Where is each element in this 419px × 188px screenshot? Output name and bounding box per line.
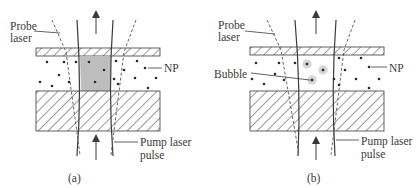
pump-laser-label: Pump laser [361, 135, 412, 147]
np-label: NP [389, 62, 404, 74]
probe-laser-label: Probe [218, 19, 245, 31]
nanoparticles [251, 57, 381, 90]
probe-laser-label-2: laser [218, 31, 240, 43]
probe-leader [34, 31, 60, 33]
pump-beam-right [333, 20, 336, 156]
up-arrow-icon [92, 10, 100, 18]
top-substrate-layer [250, 47, 384, 55]
probe-beam-right [111, 20, 136, 155]
bubble-leader [251, 73, 310, 80]
heated-region [80, 56, 111, 91]
caption-a: (a) [68, 172, 81, 184]
bubbles [302, 59, 328, 85]
pump-beam-left [295, 20, 299, 156]
pump-laser-label-2: pulse [361, 148, 385, 160]
up-arrow-icon [92, 134, 100, 142]
caption-b: (b) [307, 172, 320, 184]
pump-beam-right [111, 20, 114, 156]
bottom-substrate-layer [36, 91, 160, 131]
pump-beam-left [77, 20, 80, 156]
probe-beam-left [267, 20, 299, 155]
bottom-substrate-layer [250, 91, 384, 131]
up-arrow-icon [312, 136, 320, 144]
probe-laser-label-2: laser [10, 32, 32, 44]
probe-laser-label: Probe [10, 20, 37, 32]
np-label: NP [164, 62, 179, 74]
probe-beam-left [52, 20, 80, 155]
pump-laser-label-2: pulse [140, 149, 164, 161]
pump-laser-label: Pump laser [140, 136, 191, 148]
panel-a: Probe laser NP Pump laser pulse (a) [0, 0, 210, 188]
panel-b: Probe laser Bubble NP Pump laser pulse (… [209, 0, 419, 188]
probe-leader [245, 31, 275, 34]
bubble-label: Bubble [214, 68, 247, 80]
up-arrow-icon [312, 10, 320, 18]
top-substrate-layer [36, 48, 160, 56]
